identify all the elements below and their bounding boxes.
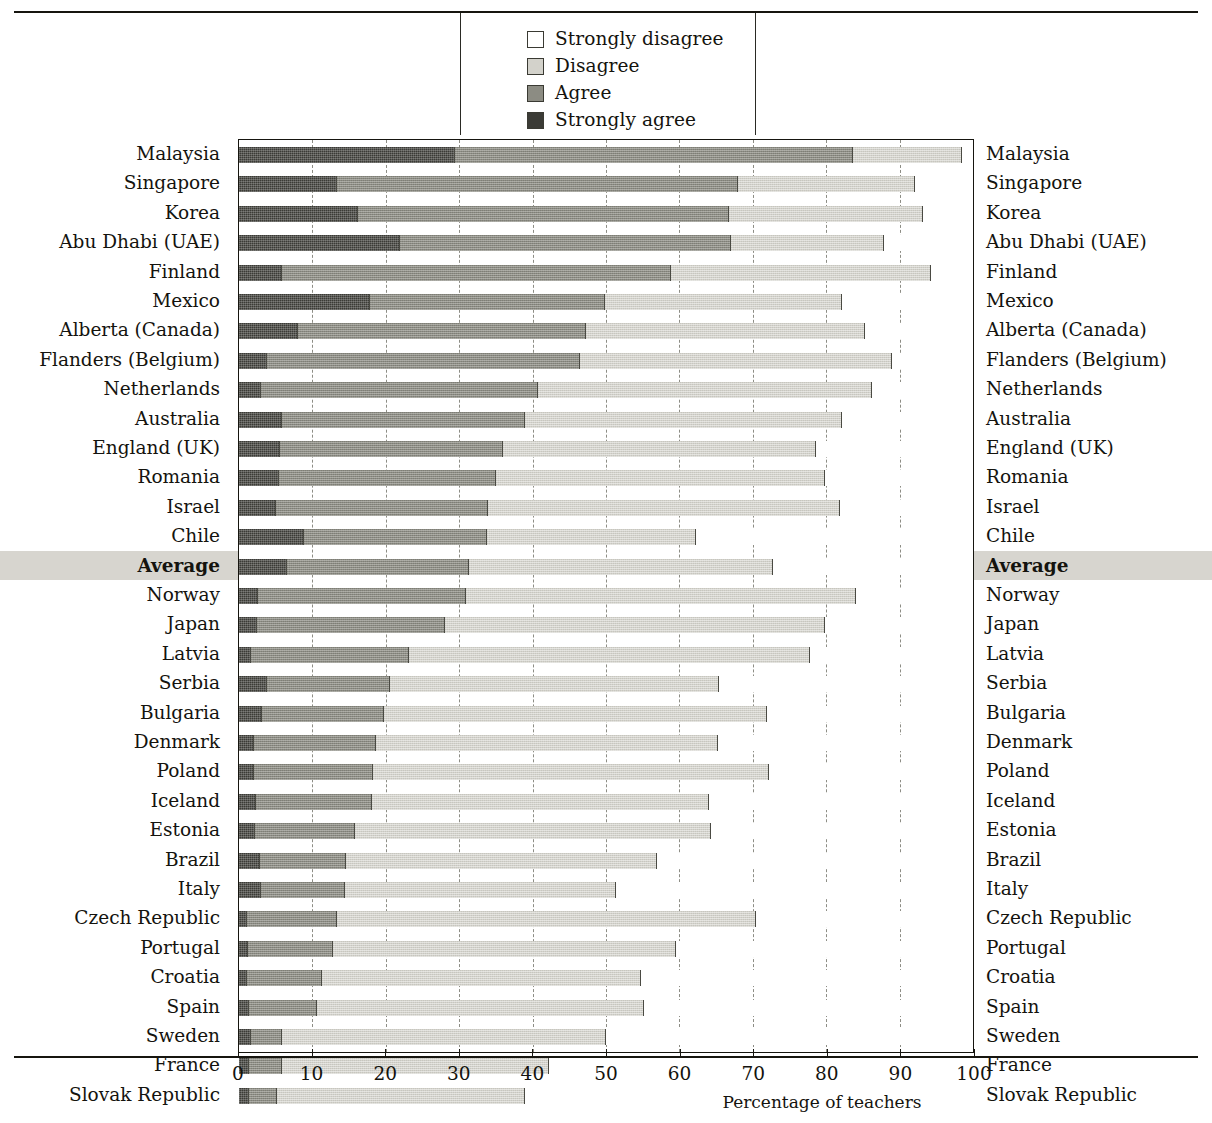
bar-segment-disagree[interactable]	[729, 206, 923, 222]
bar-segment-sagree[interactable]	[239, 441, 280, 457]
bar-segment-sagree[interactable]	[239, 853, 260, 869]
bar-segment-agree[interactable]	[358, 206, 729, 222]
bar-segment-sagree[interactable]	[239, 588, 258, 604]
bar-segment-disagree[interactable]	[605, 294, 843, 310]
bar-segment-sagree[interactable]	[239, 676, 267, 692]
bar-segment-sdisagree[interactable]	[856, 588, 973, 604]
bar-segment-sagree[interactable]	[239, 764, 254, 780]
bar-segment-agree[interactable]	[249, 1000, 317, 1016]
bar-segment-disagree[interactable]	[333, 941, 676, 957]
bar-segment-agree[interactable]	[267, 676, 390, 692]
bar-segment-sdisagree[interactable]	[696, 529, 973, 545]
bar-segment-agree[interactable]	[370, 294, 605, 310]
bar-segment-agree[interactable]	[256, 794, 372, 810]
bar-segment-sagree[interactable]	[239, 147, 455, 163]
bar-segment-sdisagree[interactable]	[676, 941, 973, 957]
stacked-bar[interactable]	[239, 206, 973, 222]
bar-segment-agree[interactable]	[254, 735, 376, 751]
bar-segment-sdisagree[interactable]	[641, 970, 973, 986]
bar-segment-disagree[interactable]	[384, 706, 767, 722]
bar-segment-disagree[interactable]	[372, 794, 710, 810]
bar-segment-sagree[interactable]	[239, 470, 279, 486]
bar-segment-sdisagree[interactable]	[825, 470, 973, 486]
bar-segment-sdisagree[interactable]	[719, 676, 973, 692]
stacked-bar[interactable]	[239, 323, 973, 339]
bar-segment-disagree[interactable]	[586, 323, 865, 339]
stacked-bar[interactable]	[239, 294, 973, 310]
stacked-bar[interactable]	[239, 882, 973, 898]
bar-segment-sdisagree[interactable]	[657, 853, 973, 869]
stacked-bar[interactable]	[239, 147, 973, 163]
stacked-bar[interactable]	[239, 706, 973, 722]
bar-segment-sagree[interactable]	[239, 382, 261, 398]
stacked-bar[interactable]	[239, 1029, 973, 1045]
bar-segment-sagree[interactable]	[239, 559, 287, 575]
stacked-bar[interactable]	[239, 235, 973, 251]
stacked-bar[interactable]	[239, 794, 973, 810]
bar-segment-sagree[interactable]	[239, 1000, 249, 1016]
bar-segment-sdisagree[interactable]	[616, 882, 973, 898]
bar-segment-sagree[interactable]	[239, 265, 282, 281]
bar-segment-agree[interactable]	[400, 235, 730, 251]
bar-segment-disagree[interactable]	[538, 382, 872, 398]
bar-segment-agree[interactable]	[298, 323, 586, 339]
bar-segment-sagree[interactable]	[239, 647, 251, 663]
bar-segment-agree[interactable]	[262, 706, 384, 722]
bar-segment-sagree[interactable]	[239, 412, 282, 428]
stacked-bar[interactable]	[239, 647, 973, 663]
bar-segment-agree[interactable]	[247, 970, 322, 986]
bar-segment-disagree[interactable]	[496, 470, 825, 486]
stacked-bar[interactable]	[239, 588, 973, 604]
bar-segment-disagree[interactable]	[376, 735, 717, 751]
bar-segment-sdisagree[interactable]	[810, 647, 973, 663]
bar-segment-sdisagree[interactable]	[816, 441, 973, 457]
stacked-bar[interactable]	[239, 353, 973, 369]
stacked-bar[interactable]	[239, 911, 973, 927]
stacked-bar[interactable]	[239, 559, 973, 575]
bar-segment-disagree[interactable]	[390, 676, 719, 692]
bar-segment-agree[interactable]	[260, 853, 347, 869]
bar-segment-agree[interactable]	[337, 176, 738, 192]
bar-segment-agree[interactable]	[282, 265, 672, 281]
bar-segment-sagree[interactable]	[239, 823, 255, 839]
bar-segment-agree[interactable]	[276, 500, 487, 516]
bar-segment-sagree[interactable]	[239, 794, 256, 810]
bar-segment-sdisagree[interactable]	[756, 911, 973, 927]
bar-segment-sagree[interactable]	[239, 353, 267, 369]
bar-segment-agree[interactable]	[257, 617, 445, 633]
bar-segment-disagree[interactable]	[466, 588, 856, 604]
bar-segment-disagree[interactable]	[282, 1029, 606, 1045]
bar-segment-sdisagree[interactable]	[884, 235, 973, 251]
bar-segment-disagree[interactable]	[346, 853, 657, 869]
bar-segment-disagree[interactable]	[503, 441, 816, 457]
bar-segment-sagree[interactable]	[239, 941, 248, 957]
bar-segment-disagree[interactable]	[322, 970, 641, 986]
bar-segment-sdisagree[interactable]	[931, 265, 973, 281]
bar-segment-sdisagree[interactable]	[711, 823, 973, 839]
bar-segment-agree[interactable]	[280, 441, 503, 457]
bar-segment-sdisagree[interactable]	[709, 794, 973, 810]
bar-segment-agree[interactable]	[247, 911, 337, 927]
bar-segment-disagree[interactable]	[469, 559, 772, 575]
bar-segment-sagree[interactable]	[239, 735, 254, 751]
bar-segment-agree[interactable]	[282, 412, 524, 428]
bar-segment-agree[interactable]	[254, 764, 372, 780]
bar-segment-disagree[interactable]	[731, 235, 884, 251]
bar-segment-disagree[interactable]	[355, 823, 711, 839]
bar-segment-sagree[interactable]	[239, 529, 304, 545]
bar-segment-disagree[interactable]	[317, 1000, 644, 1016]
stacked-bar[interactable]	[239, 764, 973, 780]
bar-segment-sdisagree[interactable]	[923, 206, 973, 222]
bar-segment-disagree[interactable]	[671, 265, 931, 281]
bar-segment-agree[interactable]	[258, 588, 466, 604]
bar-segment-agree[interactable]	[251, 1029, 282, 1045]
bar-segment-sagree[interactable]	[239, 323, 298, 339]
stacked-bar[interactable]	[239, 823, 973, 839]
bar-segment-agree[interactable]	[248, 941, 333, 957]
stacked-bar[interactable]	[239, 412, 973, 428]
bar-segment-agree[interactable]	[287, 559, 470, 575]
bar-segment-sagree[interactable]	[239, 294, 370, 310]
bar-segment-sdisagree[interactable]	[962, 147, 973, 163]
bar-segment-agree[interactable]	[455, 147, 854, 163]
bar-segment-disagree[interactable]	[580, 353, 892, 369]
